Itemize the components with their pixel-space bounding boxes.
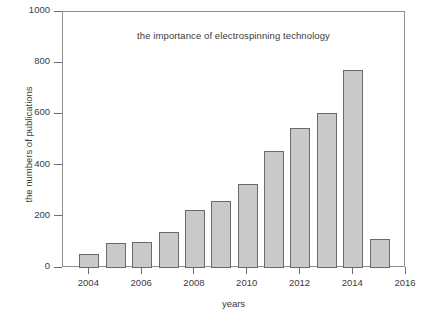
y-tick-mark <box>54 215 62 216</box>
y-tick-mark <box>54 62 62 63</box>
y-tick-label: 0 <box>16 260 50 271</box>
chart-title: the importance of electrospinning techno… <box>62 30 405 41</box>
bar-2008 <box>185 210 205 268</box>
x-tick-label: 2010 <box>225 277 269 288</box>
x-tick-label: 2012 <box>277 277 321 288</box>
bar-2013 <box>317 113 337 268</box>
x-tick-label: 2006 <box>119 277 163 288</box>
y-tick-mark <box>54 11 62 12</box>
y-tick-label: 200 <box>16 209 50 220</box>
y-tick-label: 600 <box>16 106 50 117</box>
bar-2010 <box>238 184 258 268</box>
bar-2009 <box>211 201 231 268</box>
y-tick-mark <box>54 267 62 268</box>
y-tick-mark <box>54 164 62 165</box>
x-axis-title: years <box>62 298 405 309</box>
bar-2005 <box>106 243 126 268</box>
bar-2015 <box>370 239 390 268</box>
bar-chart-figure: the numbers of publications 020040060080… <box>0 0 421 319</box>
y-axis-title: the numbers of publications <box>23 65 34 225</box>
y-tick-label: 1000 <box>16 4 50 15</box>
x-tick-label: 2008 <box>172 277 216 288</box>
plot-area <box>62 11 405 267</box>
bar-2011 <box>264 151 284 268</box>
y-tick-label: 800 <box>16 55 50 66</box>
x-tick-mark <box>88 267 89 274</box>
y-tick-mark <box>54 113 62 114</box>
bar-2014 <box>343 70 363 268</box>
x-tick-mark <box>405 267 406 274</box>
bar-2007 <box>159 232 179 268</box>
x-tick-mark <box>246 267 247 274</box>
x-tick-label: 2014 <box>330 277 374 288</box>
x-tick-mark <box>299 267 300 274</box>
x-tick-label: 2004 <box>66 277 110 288</box>
bar-2012 <box>290 128 310 268</box>
bar-2006 <box>132 242 152 268</box>
x-tick-label: 2016 <box>383 277 421 288</box>
x-tick-mark <box>141 267 142 274</box>
x-tick-mark <box>352 267 353 274</box>
y-tick-label: 400 <box>16 158 50 169</box>
x-tick-mark <box>193 267 194 274</box>
bar-2004 <box>79 254 99 268</box>
